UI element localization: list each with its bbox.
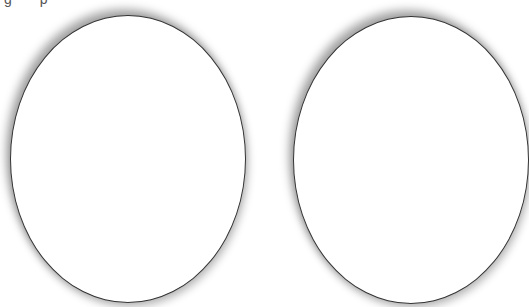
cropped-header-text: g p (4, 0, 59, 7)
right-oval (293, 16, 529, 304)
left-oval (10, 15, 246, 303)
